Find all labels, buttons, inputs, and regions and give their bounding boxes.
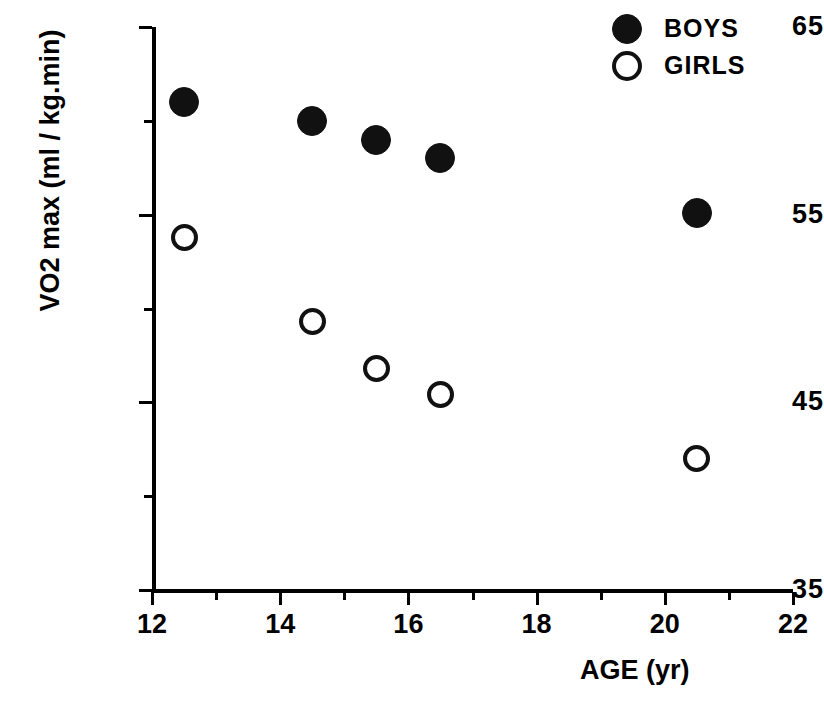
y-tick-major [139, 26, 152, 29]
y-tick-label: 35 [732, 576, 824, 603]
legend-item-girls: GIRLS [612, 49, 745, 82]
data-point-boys [682, 198, 712, 228]
y-tick-major [139, 401, 152, 404]
y-tick-minor [144, 495, 152, 498]
data-point-boys [425, 143, 455, 173]
x-tick-major [536, 592, 539, 605]
legend-item-boys: BOYS [612, 12, 745, 45]
x-tick-major [407, 592, 410, 605]
x-tick-label: 18 [497, 611, 577, 638]
data-point-boys [361, 125, 391, 155]
x-tick-minor [215, 592, 218, 600]
x-axis-title: AGE (yr) [580, 655, 690, 686]
data-point-girls [171, 224, 198, 251]
data-point-girls [683, 445, 710, 472]
x-tick-major [664, 592, 667, 605]
legend-label: GIRLS [664, 53, 745, 78]
data-point-girls [299, 308, 326, 335]
y-axis-title: VO2 max (ml / kg.min) [35, 0, 66, 371]
y-tick-minor [144, 120, 152, 123]
y-tick-label: 55 [732, 201, 824, 228]
x-tick-label: 16 [368, 611, 448, 638]
chart-legend: BOYSGIRLS [612, 12, 745, 86]
data-point-boys [297, 106, 327, 136]
x-tick-major [792, 592, 795, 605]
data-point-girls [363, 355, 390, 382]
legend-label: BOYS [664, 16, 739, 41]
x-tick-minor [472, 592, 475, 600]
x-tick-minor [600, 592, 603, 600]
x-tick-label: 14 [240, 611, 320, 638]
x-tick-label: 22 [753, 611, 824, 638]
x-tick-major [151, 592, 154, 605]
y-tick-label: 65 [732, 13, 824, 40]
x-tick-minor [728, 592, 731, 600]
y-tick-minor [144, 308, 152, 311]
scatter-chart: 35455565 121416182022 VO2 max (ml / kg.m… [0, 0, 824, 709]
y-tick-label: 45 [732, 388, 824, 415]
open-circle-icon [612, 51, 642, 81]
filled-circle-icon [612, 14, 642, 44]
y-axis-line [152, 27, 156, 593]
y-tick-major [139, 214, 152, 217]
x-tick-label: 12 [112, 611, 192, 638]
x-tick-label: 20 [625, 611, 705, 638]
x-tick-minor [343, 592, 346, 600]
data-point-girls [427, 381, 454, 408]
data-point-boys [169, 87, 199, 117]
x-tick-major [279, 592, 282, 605]
